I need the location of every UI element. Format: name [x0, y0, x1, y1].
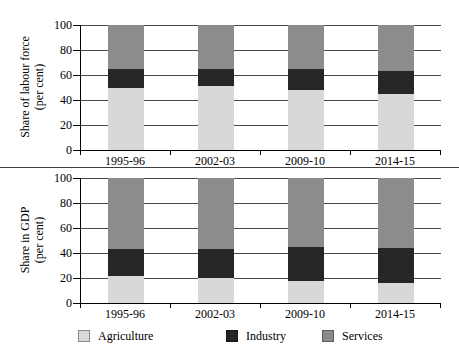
y-tick-label: 20	[38, 271, 72, 285]
stacked-bar-figure: Share of labour force (per cent) 0204060…	[0, 0, 459, 360]
bar-segment-agriculture-2009-10	[288, 90, 324, 150]
y-tick-label: 40	[38, 246, 72, 260]
y-tick-mark	[73, 303, 80, 304]
y-tick-mark	[73, 278, 80, 279]
y-tick-label: 0	[38, 296, 72, 310]
bar-segment-services-2009-10	[288, 25, 324, 69]
bar-segment-agriculture-1995-96	[108, 88, 144, 151]
legend: Agriculture Industry Services	[0, 329, 459, 345]
y-tick-label: 60	[38, 221, 72, 235]
bar-segment-services-2014-15	[378, 25, 414, 71]
y-tick-mark	[73, 203, 80, 204]
bar-segment-agriculture-2002-03	[198, 278, 234, 303]
legend-label-services: Services	[342, 329, 383, 343]
bar-segment-industry-2014-15	[378, 248, 414, 283]
y-axis-title-line1: Share in GDP	[18, 165, 32, 315]
legend-label-agriculture: Agriculture	[98, 329, 153, 343]
agriculture-swatch-icon	[78, 330, 90, 342]
bar-segment-services-2009-10	[288, 178, 324, 247]
bar-segment-services-1995-96	[108, 25, 144, 69]
bar-segment-industry-1995-96	[108, 69, 144, 88]
bar-segment-services-2002-03	[198, 25, 234, 69]
bar-segment-agriculture-1995-96	[108, 276, 144, 304]
bar-segment-services-2002-03	[198, 178, 234, 249]
x-tick-mark	[350, 304, 351, 308]
plot-area-gdp	[80, 178, 441, 304]
bar-segment-agriculture-2002-03	[198, 86, 234, 150]
y-axis-title-gdp: Share in GDP (per cent)	[18, 165, 46, 315]
x-tick-label: 2009-10	[269, 307, 341, 321]
x-tick-label: 2014-15	[359, 307, 431, 321]
y-tick-label: 100	[38, 171, 72, 185]
x-tick-label: 1995-96	[89, 307, 161, 321]
bar-segment-agriculture-2014-15	[378, 283, 414, 303]
x-tick-mark	[440, 304, 441, 308]
bar-segment-industry-2002-03	[198, 69, 234, 87]
x-tick-label: 2002-03	[179, 307, 251, 321]
x-tick-mark	[80, 304, 81, 308]
y-tick-label: 80	[38, 196, 72, 210]
industry-swatch-icon	[226, 330, 238, 342]
x-tick-mark	[170, 304, 171, 308]
bar-segment-industry-2002-03	[198, 249, 234, 278]
bar-segment-agriculture-2009-10	[288, 281, 324, 304]
bar-segment-industry-2014-15	[378, 71, 414, 94]
bar-segment-services-2014-15	[378, 178, 414, 248]
bar-segment-industry-2009-10	[288, 69, 324, 90]
bar-segment-industry-2009-10	[288, 247, 324, 281]
y-tick-mark	[73, 178, 80, 179]
y-tick-mark	[73, 228, 80, 229]
legend-label-industry: Industry	[246, 329, 286, 343]
bar-segment-industry-1995-96	[108, 249, 144, 275]
y-axis-title-line2: (per cent)	[32, 165, 46, 315]
bar-segment-services-1995-96	[108, 178, 144, 249]
x-tick-mark	[260, 304, 261, 308]
y-tick-mark	[73, 253, 80, 254]
bar-segment-agriculture-2014-15	[378, 94, 414, 150]
services-swatch-icon	[322, 330, 334, 342]
